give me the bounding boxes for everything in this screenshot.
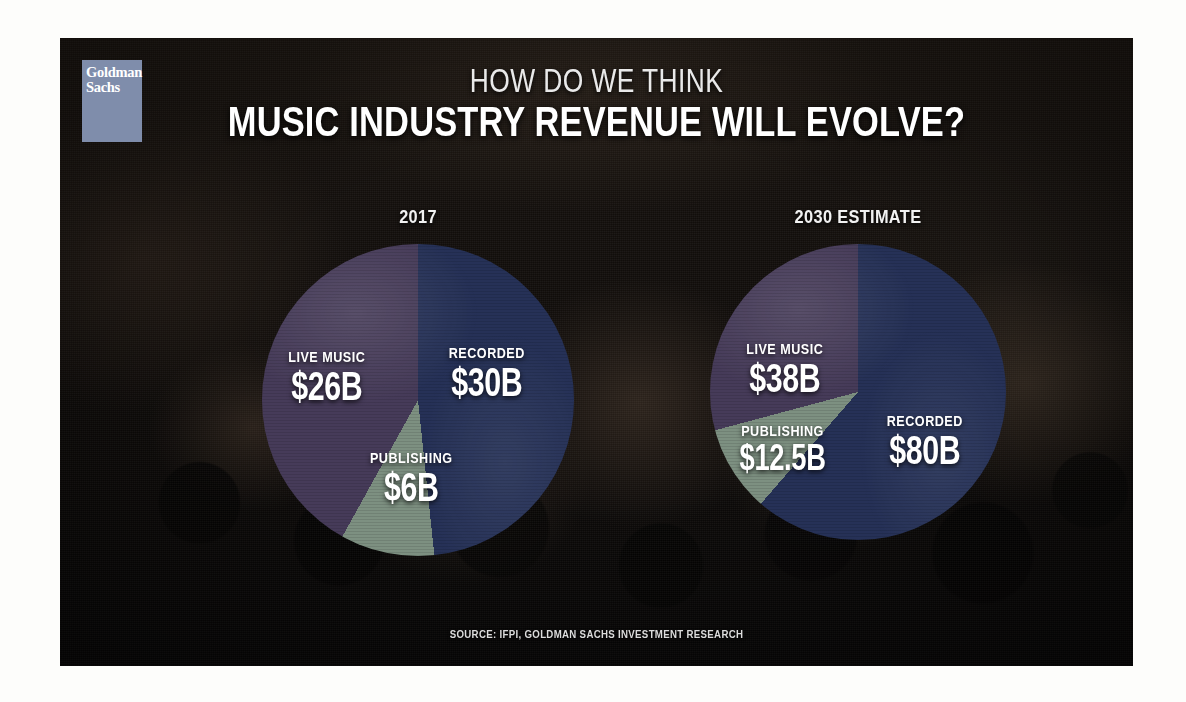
slice-label-publishing-2017: PUBLISHING $6B (362, 449, 461, 507)
chart-2030-pie-wrap: LIVE MUSIC $38B PUBLISHING $12.5B RECORD… (710, 244, 1006, 540)
slice-value: $6B (374, 467, 449, 507)
slice-value: $12.5B (740, 440, 826, 476)
slice-label-publishing-2030: PUBLISHING $12.5B (726, 422, 839, 476)
chart-2017: 2017 LIVE MUSIC $26B RECORDED $30B PUBLI… (208, 206, 628, 556)
slice-value: $80B (889, 430, 960, 470)
infographic-page: Goldman Sachs HOW DO WE THINK MUSIC INDU… (0, 0, 1186, 702)
slice-name: PUBLISHING (370, 449, 453, 466)
slice-label-recorded-2030: RECORDED $80B (878, 412, 972, 470)
chart-2030: 2030 ESTIMATE LIVE MUSIC $38B PUBLISHING… (648, 206, 1068, 540)
slice-label-live-music-2017: LIVE MUSIC $26B (280, 348, 374, 406)
slice-name: LIVE MUSIC (745, 340, 824, 357)
slice-value: $26B (291, 366, 362, 406)
slice-label-recorded-2017: RECORDED $30B (440, 344, 534, 402)
headline-kicker: HOW DO WE THINK (167, 62, 1025, 99)
headline-main: MUSIC INDUSTRY REVENUE WILL EVOLVE? (157, 99, 1037, 144)
slice-name: LIVE MUSIC (287, 348, 366, 365)
slice-name: RECORDED (885, 412, 964, 429)
infographic-panel: Goldman Sachs HOW DO WE THINK MUSIC INDU… (60, 38, 1133, 666)
slice-label-live-music-2030: LIVE MUSIC $38B (738, 340, 832, 398)
source-note: SOURCE: IFPI, GOLDMAN SACHS INVESTMENT R… (124, 628, 1068, 640)
chart-2030-title: 2030 ESTIMATE (677, 206, 1038, 228)
page-title: HOW DO WE THINK MUSIC INDUSTRY REVENUE W… (60, 62, 1133, 144)
slice-value: $38B (749, 358, 820, 398)
slice-name: RECORDED (447, 344, 526, 361)
slice-value: $30B (451, 362, 522, 402)
chart-2017-pie-wrap: LIVE MUSIC $26B RECORDED $30B PUBLISHING… (262, 244, 574, 556)
chart-2017-title: 2017 (237, 206, 598, 228)
